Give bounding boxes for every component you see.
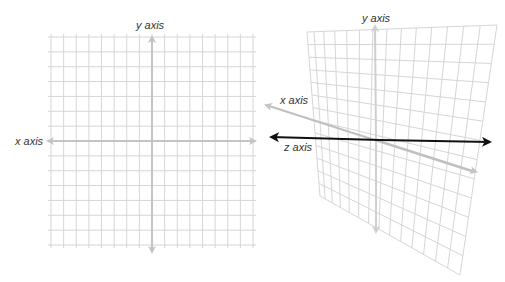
right-z-axis-label: z axis [283, 141, 313, 153]
coordinate-diagram: y axis x axis y axis x axis z axis [0, 0, 505, 282]
grid-line [347, 31, 350, 213]
grid-line [319, 183, 463, 255]
right-y-axis-label: y axis [361, 12, 391, 24]
right-x-axis-label: x axis [279, 94, 309, 106]
grid-line [314, 32, 325, 199]
left-y-axis-label: y axis [135, 19, 165, 31]
grid-line [390, 29, 402, 236]
grid-line [307, 25, 497, 32]
grid-line [307, 32, 320, 196]
right-z-axis-arrow-right [380, 140, 490, 142]
left-x-axis-label: x axis [14, 135, 44, 147]
right-grid [307, 25, 497, 275]
grid-line [324, 31, 333, 203]
right-y-axis-arrow-up [375, 26, 376, 140]
grid-line [335, 31, 341, 208]
